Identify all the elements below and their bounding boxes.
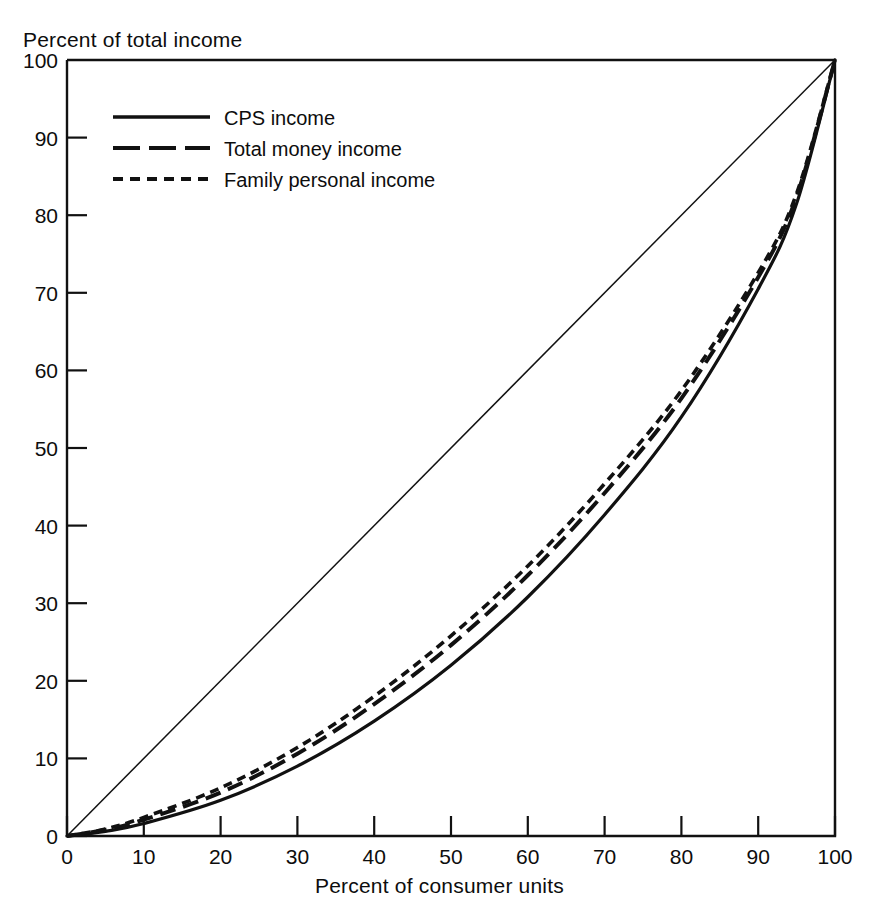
y-tick-label: 20: [35, 670, 58, 693]
x-axis-title: Percent of consumer units: [0, 874, 879, 898]
y-tick-label: 100: [23, 49, 58, 72]
x-tick-labels: 0 10 20 30 40 50 60 70 80 90 100: [61, 845, 852, 868]
x-tick-marks: [67, 816, 835, 836]
x-tick-label: 10: [132, 845, 155, 868]
x-tick-label: 20: [209, 845, 232, 868]
x-tick-label: 70: [593, 845, 616, 868]
y-tick-label: 70: [35, 282, 58, 305]
x-tick-label: 80: [670, 845, 693, 868]
x-tick-label: 50: [439, 845, 462, 868]
y-tick-label: 40: [35, 515, 58, 538]
x-tick-label: 30: [286, 845, 309, 868]
x-tick-label: 60: [516, 845, 539, 868]
legend-label-cps-income: CPS income: [224, 107, 335, 129]
x-tick-label: 100: [817, 845, 852, 868]
plot-area: 100 90 80 70 60 50 40 30 20 10 0: [0, 0, 879, 908]
y-tick-labels: 100 90 80 70 60 50 40 30 20 10 0: [23, 49, 58, 848]
legend-label-family-personal-income: Family personal income: [224, 169, 435, 191]
y-tick-label: 80: [35, 204, 58, 227]
legend: CPS income Total money income Family per…: [113, 107, 435, 191]
y-tick-label: 90: [35, 127, 58, 150]
x-tick-label: 40: [363, 845, 386, 868]
equality-reference-line: [67, 60, 835, 836]
y-tick-label: 60: [35, 359, 58, 382]
x-tick-label: 0: [61, 845, 73, 868]
lorenz-curve-figure: Percent of total income 100 90 80 70 60 …: [0, 0, 879, 908]
y-tick-label: 50: [35, 437, 58, 460]
y-tick-label: 0: [46, 825, 58, 848]
x-tick-label: 90: [747, 845, 770, 868]
y-tick-label: 10: [35, 747, 58, 770]
y-tick-marks: [67, 138, 87, 836]
y-tick-label: 30: [35, 592, 58, 615]
legend-label-total-money-income: Total money income: [224, 138, 402, 160]
